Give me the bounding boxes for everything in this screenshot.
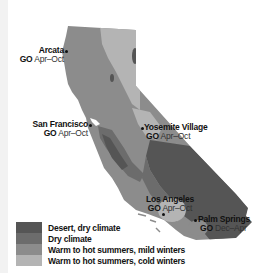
go-range: Apr–Oct xyxy=(161,131,191,141)
legend-label: Dry climate xyxy=(48,234,92,244)
legend-label: Warm to hot summers, cold winters xyxy=(48,256,185,266)
legend-item-cold-winters: Warm to hot summers, cold winters xyxy=(16,255,185,266)
go-range: Dec–Apr xyxy=(215,223,247,233)
legend-item-dry: Dry climate xyxy=(16,233,185,244)
channel-islands xyxy=(138,214,146,216)
place-palm-springs: Palm Springs GO Dec–Apr xyxy=(198,215,250,233)
go-label: GO xyxy=(20,54,33,64)
los-angeles-marker xyxy=(162,213,165,216)
legend-item-mild-winters: Warm to hot summers, mild winters xyxy=(16,244,185,255)
place-los-angeles: Los Angeles GO Apr–Oct xyxy=(140,195,200,213)
legend-swatch xyxy=(16,233,42,244)
legend-swatch xyxy=(16,255,42,266)
legend-item-desert: Desert, dry climate xyxy=(16,222,185,233)
san-francisco-marker xyxy=(89,124,92,127)
go-label: GO xyxy=(148,203,161,213)
go-range: Apr–Oct xyxy=(162,203,192,213)
place-yosemite-village: Yosemite Village GO Apr–Oct xyxy=(144,123,208,141)
go-label: GO xyxy=(146,131,159,141)
go-range: Apr–Oct xyxy=(58,128,88,138)
place-arcata: Arcata GO Apr–Oct xyxy=(14,46,64,64)
place-san-francisco: San Francisco GO Apr–Oct xyxy=(14,120,88,138)
legend-swatch xyxy=(16,222,42,233)
go-range: Apr–Oct xyxy=(34,54,64,64)
arcata-marker xyxy=(65,50,68,53)
legend-swatch xyxy=(16,244,42,255)
legend-label: Warm to hot summers, mild winters xyxy=(48,245,185,255)
go-label: GO xyxy=(200,223,213,233)
palm-springs-marker xyxy=(194,219,197,222)
map-legend: Desert, dry climate Dry climate Warm to … xyxy=(16,222,185,266)
go-label: GO xyxy=(44,128,57,138)
legend-label: Desert, dry climate xyxy=(48,223,120,233)
